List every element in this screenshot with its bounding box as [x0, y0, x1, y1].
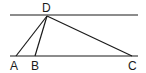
- segment-db: [35, 16, 47, 56]
- geometry-diagram: D A B C: [0, 0, 146, 73]
- label-b: B: [31, 59, 39, 73]
- label-c: C: [128, 59, 137, 73]
- label-a: A: [10, 59, 18, 73]
- segment-da: [16, 16, 47, 56]
- label-d: D: [42, 1, 51, 15]
- segment-dc: [47, 16, 132, 56]
